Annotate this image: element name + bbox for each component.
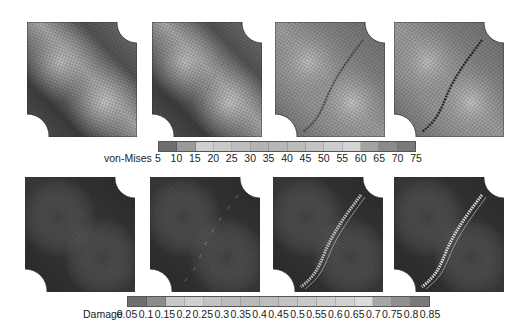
colorbar-cell <box>298 297 317 306</box>
colorbar-cell <box>336 297 355 306</box>
mesh-plot <box>150 177 260 292</box>
vonmises-colorbar <box>158 141 416 152</box>
colorbar-tick-label: 0.15 <box>155 308 175 320</box>
colorbar-cell <box>355 297 374 306</box>
colorbar-tick-label: 5 <box>155 152 161 164</box>
colorbar-tick-label: 25 <box>226 152 238 164</box>
colorbar-tick-label: 0.35 <box>230 308 250 320</box>
colorbar-tick-label: 0.85 <box>420 308 440 320</box>
colorbar-cell <box>185 297 204 306</box>
colorbar-cell <box>222 297 241 306</box>
mesh-plot <box>27 22 137 137</box>
colorbar-tick-label: 0.75 <box>382 308 402 320</box>
colorbar-cell <box>260 297 279 306</box>
colorbar-tick-label: 75 <box>410 152 422 164</box>
colorbar-cell <box>269 142 287 151</box>
colorbar-cell <box>214 142 232 151</box>
damage-panel-1 <box>25 177 135 292</box>
mesh-plot <box>152 22 262 137</box>
mesh-plot <box>394 177 504 292</box>
colorbar-tick-label: 0.45 <box>268 308 288 320</box>
colorbar-cell <box>288 142 306 151</box>
colorbar-cell <box>373 297 392 306</box>
colorbar-cell <box>392 297 411 306</box>
colorbar-cell <box>147 297 166 306</box>
colorbar-tick-label: 55 <box>336 152 348 164</box>
colorbar-tick-label: 45 <box>300 152 312 164</box>
colorbar-cell <box>232 142 250 151</box>
colorbar-tick-label: 0.25 <box>193 308 213 320</box>
colorbar-cell <box>411 297 429 306</box>
colorbar-tick-label: 65 <box>373 152 385 164</box>
colorbar-tick-label: 0.65 <box>344 308 364 320</box>
colorbar-tick-label: 0.7 <box>366 308 381 320</box>
vonmises-panel-1 <box>27 22 137 137</box>
vonmises-panel-3 <box>275 22 385 137</box>
vonmises-colorbar-title: von-Mises <box>104 152 152 164</box>
colorbar-cell <box>306 142 324 151</box>
damage-panel-2 <box>150 177 260 292</box>
colorbar-tick-label: 0.8 <box>404 308 419 320</box>
colorbar-tick-label: 60 <box>355 152 367 164</box>
colorbar-tick-label: 0.4 <box>252 308 267 320</box>
mesh-plot <box>394 22 504 137</box>
mesh-plot <box>275 22 385 137</box>
colorbar-tick-label: 10 <box>171 152 183 164</box>
colorbar-cell <box>317 297 336 306</box>
colorbar-tick-label: 50 <box>318 152 330 164</box>
colorbar-cell <box>196 142 214 151</box>
colorbar-tick-label: 0.55 <box>306 308 326 320</box>
colorbar-tick-label: 0.2 <box>177 308 192 320</box>
damage-panel-3 <box>273 177 383 292</box>
mesh-plot <box>273 177 383 292</box>
vonmises-panel-2 <box>152 22 262 137</box>
colorbar-cell <box>343 142 361 151</box>
colorbar-cell <box>361 142 379 151</box>
colorbar-tick-label: 70 <box>392 152 404 164</box>
colorbar-tick-label: 20 <box>207 152 219 164</box>
colorbar-tick-label: 30 <box>244 152 256 164</box>
colorbar-tick-label: 0.5 <box>290 308 305 320</box>
colorbar-cell <box>251 142 269 151</box>
colorbar-tick-label: 35 <box>263 152 275 164</box>
colorbar-tick-label: 15 <box>189 152 201 164</box>
colorbar-tick-label: 0.1 <box>139 308 154 320</box>
colorbar-tick-label: 0.3 <box>214 308 229 320</box>
colorbar-cell <box>398 142 415 151</box>
colorbar-cell <box>159 142 177 151</box>
mesh-plot <box>25 177 135 292</box>
colorbar-cell <box>241 297 260 306</box>
damage-panel-4 <box>394 177 504 292</box>
colorbar-cell <box>177 142 195 151</box>
colorbar-tick-label: 0.6 <box>328 308 343 320</box>
colorbar-cell <box>324 142 342 151</box>
colorbar-cell <box>166 297 185 306</box>
colorbar-cell <box>279 297 298 306</box>
colorbar-cell <box>379 142 397 151</box>
colorbar-cell <box>204 297 223 306</box>
colorbar-cell <box>128 297 147 306</box>
colorbar-tick-label: 40 <box>281 152 293 164</box>
damage-colorbar <box>127 296 430 307</box>
colorbar-tick-label: 0.05 <box>117 308 137 320</box>
vonmises-panel-4 <box>394 22 504 137</box>
